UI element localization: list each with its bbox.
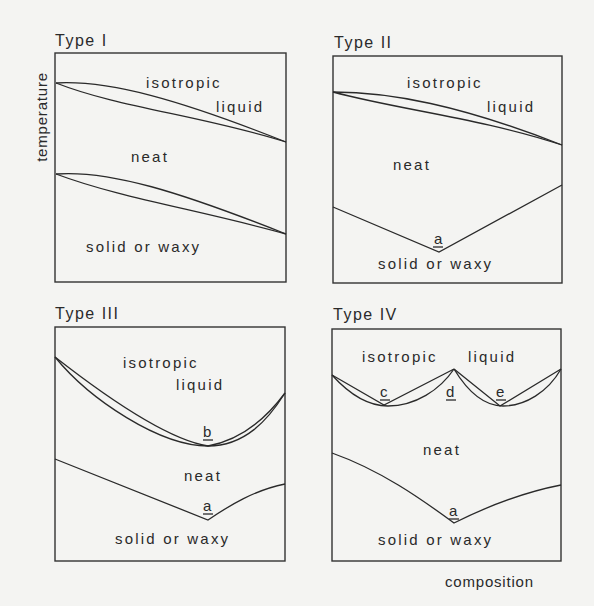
x-axis-label: composition — [445, 573, 534, 590]
neat-solid-eutectic-boundary — [333, 185, 562, 252]
region-label-neat: neat — [184, 467, 222, 484]
region-label-isotropic: isotropic — [146, 74, 222, 91]
point-label-e: e — [496, 383, 504, 400]
point-label-a: a — [203, 497, 212, 514]
neat-solid-lower-boundary — [56, 174, 286, 234]
region-label-isotropic: isotropic — [123, 354, 199, 371]
region-label-solid-or-waxy: solid or waxy — [115, 530, 230, 547]
point-label-a: a — [449, 502, 458, 519]
liquid-neat-boundary-e-upper — [454, 369, 561, 406]
neat-solid-eutectic-boundary — [332, 453, 561, 523]
panel-type-2: Type II isotropic liquid neat a solid or… — [333, 34, 562, 283]
region-label-isotropic: isotropic — [362, 348, 438, 365]
region-label-neat: neat — [393, 156, 431, 173]
panel-type-4: Type IV isotropic liquid c d e neat a so… — [332, 306, 561, 561]
point-label-d: d — [446, 383, 454, 400]
region-label-liquid: liquid — [487, 98, 535, 115]
panel-type-1: Type I isotropic liquid neat solid or wa… — [55, 32, 286, 282]
phase-diagram-figure: temperature Type I isotropic liquid neat… — [0, 0, 594, 606]
panel-title: Type IV — [333, 306, 398, 323]
panel-title: Type III — [55, 305, 119, 322]
region-label-isotropic: isotropic — [407, 74, 483, 91]
region-label-neat: neat — [423, 441, 461, 458]
region-label-solid-or-waxy: solid or waxy — [378, 255, 493, 272]
region-label-liquid: liquid — [468, 348, 516, 365]
neat-solid-eutectic-boundary — [55, 459, 285, 520]
region-label-liquid: liquid — [176, 376, 224, 393]
point-label-a: a — [434, 230, 443, 247]
point-label-c: c — [380, 383, 388, 400]
panel-title: Type II — [334, 34, 393, 51]
liquid-neat-boundary-e-lower — [454, 369, 561, 406]
region-label-neat: neat — [131, 148, 169, 165]
region-label-solid-or-waxy: solid or waxy — [378, 531, 493, 548]
liquid-neat-boundary-c-upper — [332, 369, 454, 405]
region-label-solid-or-waxy: solid or waxy — [86, 238, 201, 255]
point-label-b: b — [203, 423, 211, 440]
region-label-liquid: liquid — [216, 98, 264, 115]
y-axis-label: temperature — [33, 72, 50, 162]
panel-type-3: Type III isotropic liquid b neat a solid… — [55, 305, 285, 561]
panel-title: Type I — [55, 32, 108, 49]
